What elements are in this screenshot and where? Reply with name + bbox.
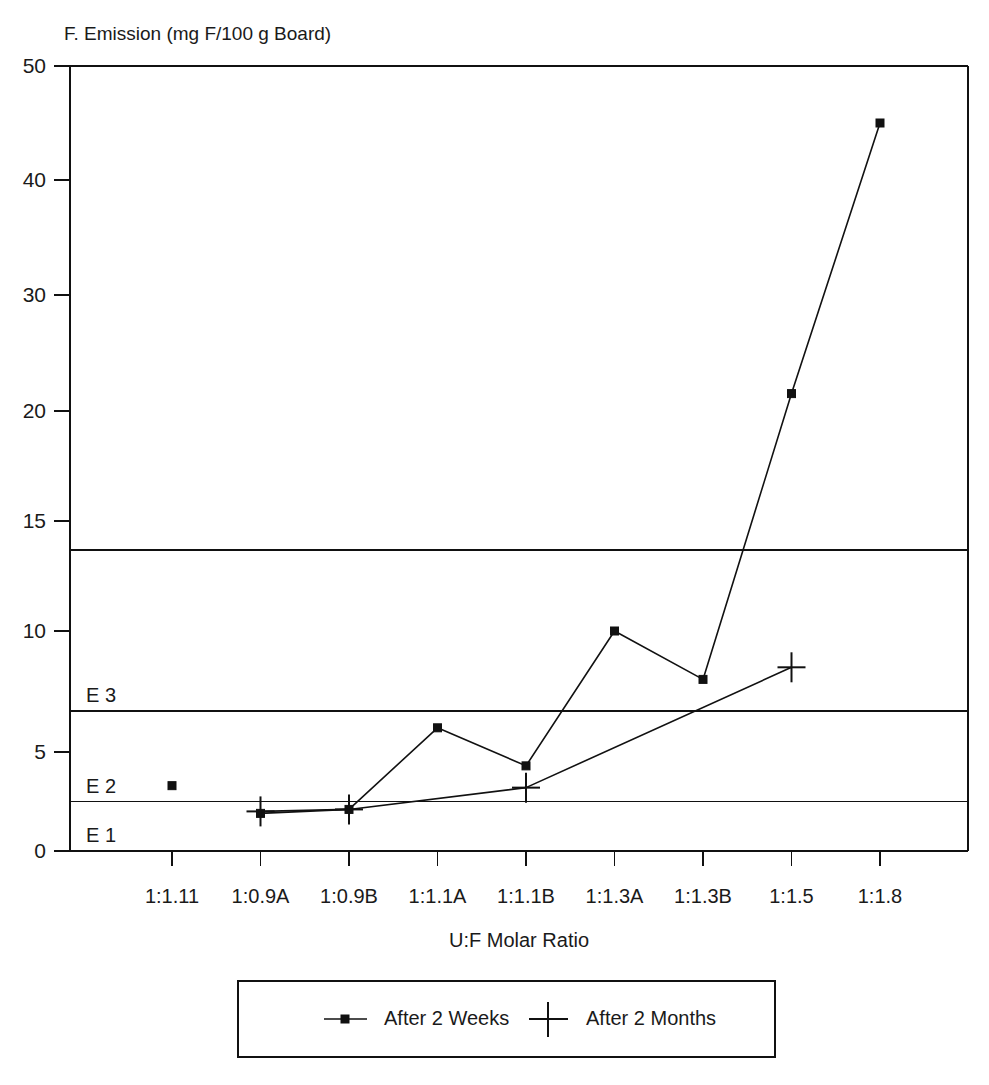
data-point-marker [876,119,884,127]
y-tick-label-50: 50 [23,54,46,77]
x-axis-title: U:F Molar Ratio [449,929,589,951]
y-tick-label-0: 0 [34,839,46,862]
series-after-2-weeks [168,119,884,817]
data-point-marker [699,675,707,683]
y-tick-label-20: 20 [23,399,46,422]
x-tick-label-1:1.1A: 1:1.1A [409,885,467,907]
series-after-2-months [247,652,806,826]
f-emission-line-chart: F. Emission (mg F/100 g Board) E 1E 2E 3… [0,0,989,1085]
y-tick-label-5: 5 [34,740,46,763]
y-tick-label-30: 30 [23,283,46,306]
data-point-marker [434,724,442,732]
y-tick-label-15: 15 [23,509,46,532]
x-tick-label-1:1.3A: 1:1.3A [586,885,644,907]
legend-label-months: After 2 Months [586,1007,716,1029]
data-point-marker [168,782,176,790]
legend-label-weeks: After 2 Weeks [384,1007,509,1029]
legend-entry-after-2-weeks: After 2 Weeks [324,1007,509,1029]
x-axis-ticks-group: 1:1.111:0.9A1:0.9B1:1.1A1:1.1B1:1.3A1:1.… [145,851,902,907]
chart-legend: After 2 Weeks After 2 Months [238,981,775,1057]
dot-marker-icon [341,1015,349,1023]
reference-label-e2: E 2 [86,775,116,797]
series-layer [168,119,884,826]
reference-lines-group: E 1E 2E 3 [70,550,968,851]
x-tick-label-1:1.11: 1:1.11 [145,885,199,907]
legend-entry-after-2-months: After 2 Months [529,1002,716,1037]
chart-container: F. Emission (mg F/100 g Board) E 1E 2E 3… [0,0,989,1085]
reference-label-e1: E 1 [86,824,116,846]
y-tick-label-40: 40 [23,168,46,191]
x-tick-label-1:1.1B: 1:1.1B [497,885,555,907]
data-point-marker [611,627,619,635]
x-tick-label-1:1.5: 1:1.5 [769,885,813,907]
x-tick-label-1:0.9A: 1:0.9A [232,885,290,907]
y-axis-ticks-group: 05101520304050 [23,54,70,862]
y-tick-label-10: 10 [23,619,46,642]
y-axis-title: F. Emission (mg F/100 g Board) [64,23,331,44]
x-tick-label-1:1.8: 1:1.8 [858,885,902,907]
x-tick-label-1:0.9B: 1:0.9B [320,885,378,907]
data-point-marker [522,762,530,770]
x-tick-label-1:1.3B: 1:1.3B [674,885,732,907]
plot-frame [70,66,968,851]
data-point-marker [788,390,796,398]
series-path [261,123,881,813]
reference-label-e3: E 3 [86,684,116,706]
